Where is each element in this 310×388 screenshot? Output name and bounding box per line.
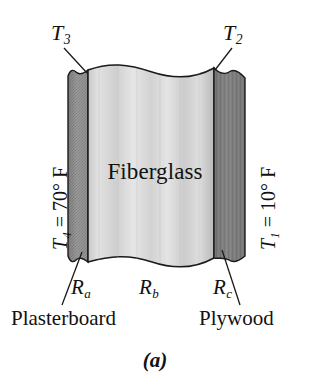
- label-fiberglass: Fiberglass: [0, 160, 310, 183]
- ra-subscript: a: [84, 286, 91, 301]
- leader-t2: [215, 48, 232, 70]
- t1-equals: =: [257, 216, 279, 227]
- label-t2: T2: [223, 22, 243, 44]
- t3-subscript: 3: [63, 32, 70, 47]
- label-plywood: Plywood: [199, 308, 274, 329]
- figure-caption: (a): [0, 350, 310, 371]
- rc-subscript: c: [226, 286, 232, 301]
- label-resistance-rc: Rc: [213, 277, 232, 298]
- t1-symbol: T: [257, 239, 279, 250]
- t2-symbol: T: [223, 20, 235, 45]
- rb-subscript: b: [152, 286, 159, 301]
- t1-value: 10: [257, 191, 279, 211]
- label-t3: T3: [51, 22, 71, 44]
- t4-subscript: 4: [60, 232, 74, 239]
- rb-symbol: R: [139, 275, 152, 299]
- t4-equals: =: [49, 216, 71, 227]
- ra-symbol: R: [71, 275, 84, 299]
- t1-subscript: 1: [268, 232, 282, 239]
- leader-t3: [64, 48, 87, 73]
- rc-symbol: R: [213, 275, 226, 299]
- label-resistance-rb: Rb: [139, 277, 159, 298]
- t3-symbol: T: [51, 20, 63, 45]
- label-resistance-ra: Ra: [71, 277, 91, 298]
- t4-symbol: T: [49, 239, 71, 250]
- label-plasterboard: Plasterboard: [11, 308, 116, 329]
- t4-value: 70: [49, 191, 71, 211]
- wall-cross-section-figure: T3 T2 T4 = 70° F T1 = 10° F Fiberglass R…: [0, 0, 310, 388]
- t2-subscript: 2: [235, 32, 242, 47]
